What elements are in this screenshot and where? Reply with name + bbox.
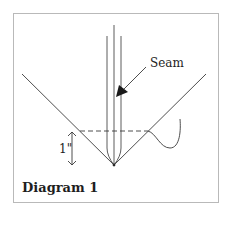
seam-arrow-icon xyxy=(116,67,146,97)
seam-point xyxy=(113,164,116,167)
diagram-title: Diagram 1 xyxy=(22,181,98,194)
thread-curve xyxy=(148,119,180,148)
measurement-label: 1" xyxy=(59,143,72,155)
seam-label: Seam xyxy=(150,57,184,69)
